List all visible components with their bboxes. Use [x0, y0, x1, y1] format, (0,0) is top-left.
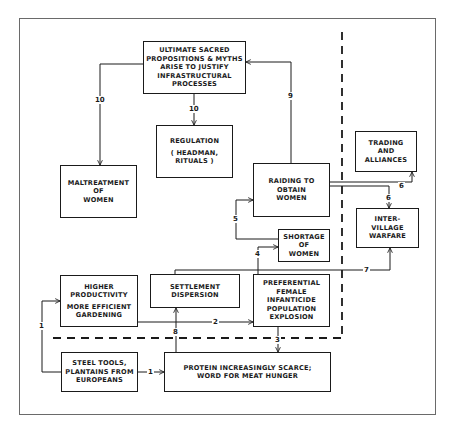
edge-label-10-center: 10 — [188, 105, 200, 113]
edge-steel-productivity — [42, 301, 61, 372]
edge-label-2: 2 — [212, 318, 219, 326]
edge-raiding-warfare — [330, 186, 389, 208]
edge-label-10-left: 10 — [94, 96, 106, 104]
box-maltreatment: MALTREATMENT OF WOMEN — [60, 165, 137, 218]
box-productivity: HIGHER PRODUCTIVITY MORE EFFICIENT GARDE… — [60, 275, 138, 327]
box-regulation: REGULATION ( HEADMAN, RITUALS ) — [156, 125, 233, 178]
edge-label-6-trading: 6 — [398, 182, 405, 190]
box-sacred-propositions: ULTIMATE SACRED PROPOSITIONS & MYTHS ARI… — [143, 41, 246, 94]
edge-label-4: 4 — [254, 250, 261, 258]
edge-raiding-sacred — [246, 62, 291, 163]
edge-label-3: 3 — [274, 336, 281, 344]
box-infanticide: PREFERENTIAL FEMALE INFANTICIDE POPULATI… — [253, 274, 330, 327]
edge-label-8: 8 — [172, 328, 179, 336]
box-shortage: SHORTAGE OF WOMEN — [278, 229, 330, 262]
edge-label-1-left: 1 — [38, 322, 45, 330]
box-trading: TRADING AND ALLIANCES — [355, 131, 417, 172]
box-protein: PROTEIN INCREASINGLY SCARCE; WORD FOR ME… — [164, 352, 331, 392]
edge-label-5: 5 — [232, 215, 239, 223]
edge-label-9: 9 — [287, 92, 294, 100]
box-raiding: RAIDING TO OBTAIN WOMEN — [253, 163, 330, 217]
edge-label-7: 7 — [363, 266, 370, 274]
edge-sacred-maltreatment — [100, 64, 143, 165]
box-settlement: SETTLEMENT DISPERSION — [150, 274, 240, 308]
edge-label-1-bottom: 1 — [147, 368, 154, 376]
box-steel-tools: STEEL TOOLS, PLANTAINS FROM EUROPEANS — [61, 352, 138, 392]
box-warfare: INTER- VILLAGE WARFARE — [356, 208, 419, 248]
edge-label-6-warfare: 6 — [385, 194, 392, 202]
